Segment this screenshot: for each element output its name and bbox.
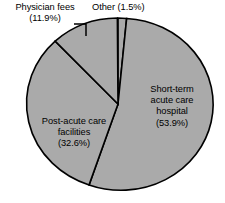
- physician-fees-label-line1: Physician fees: [15, 2, 74, 12]
- short-term-label-line1: Short-term: [150, 84, 193, 94]
- short-term-label-line4: (53.9%): [156, 118, 188, 128]
- slice-label-other: Other (1.5%): [92, 2, 172, 13]
- short-term-label-line2: acute care: [151, 95, 194, 105]
- slice-label-short-term-acute-care-hospital: Short-termacute carehospital(53.9%): [136, 84, 208, 129]
- slice-label-post-acute-care-facilities: Post-acute carefacilities(32.6%): [24, 116, 124, 150]
- pie-chart-figure: Physician fees(11.9%) Other (1.5%) Short…: [0, 0, 225, 203]
- other-label-line1: Other (1.5%): [92, 2, 145, 12]
- post-acute-label-line3: (32.6%): [58, 138, 90, 148]
- slice-label-physician-fees: Physician fees(11.9%): [2, 2, 88, 23]
- post-acute-label-line2: facilities: [58, 127, 91, 137]
- short-term-label-line3: hospital: [156, 106, 188, 116]
- physician-fees-label-line2: (11.9%): [29, 13, 61, 23]
- post-acute-label-line1: Post-acute care: [42, 116, 106, 126]
